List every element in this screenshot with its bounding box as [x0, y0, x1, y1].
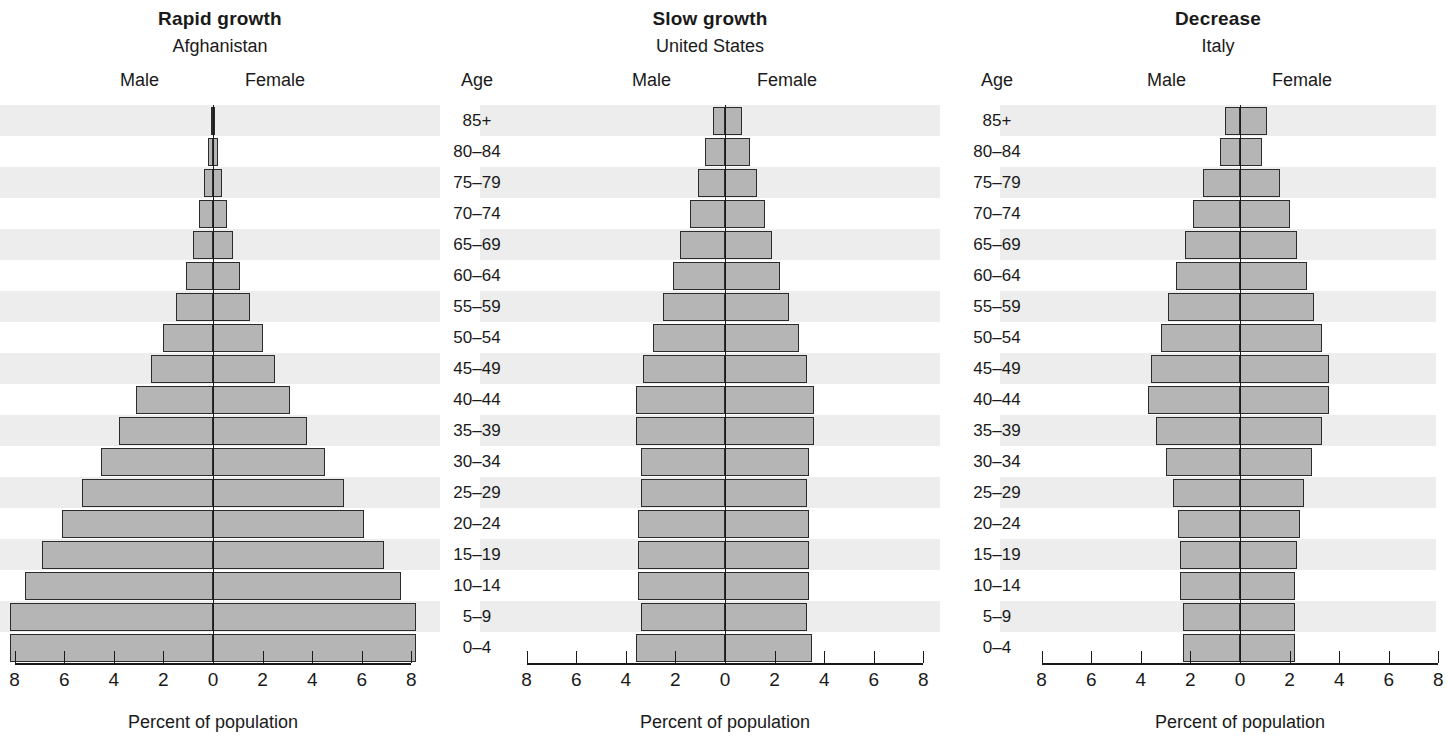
- bar-male: [638, 541, 725, 569]
- age-group-label: 20–24: [432, 514, 522, 534]
- age-group-label: 30–34: [952, 452, 1042, 472]
- age-group-label: 80–84: [432, 142, 522, 162]
- panel-title: Rapid growth: [0, 8, 440, 30]
- x-axis-tick-label: 2: [1175, 669, 1205, 691]
- bar-male: [1185, 231, 1240, 259]
- bar-male: [663, 293, 725, 321]
- bar-female: [725, 355, 807, 383]
- row-band: [0, 105, 440, 136]
- sex-legend: MaleFemale: [480, 70, 940, 94]
- bar-female: [725, 541, 809, 569]
- x-axis-tick: [923, 651, 924, 663]
- bar-male: [638, 572, 725, 600]
- age-column-header: Age: [432, 70, 522, 91]
- bar-female: [1240, 324, 1322, 352]
- bar-male: [673, 262, 725, 290]
- bar-female: [725, 138, 750, 166]
- bar-female: [213, 386, 290, 414]
- age-group-label: 30–34: [432, 452, 522, 472]
- bar-male: [1166, 448, 1240, 476]
- female-label: Female: [245, 70, 305, 91]
- age-group-label: 35–39: [952, 421, 1042, 441]
- bar-female: [213, 479, 344, 507]
- bar-male: [1173, 479, 1240, 507]
- x-axis-tick: [1190, 651, 1191, 663]
- x-axis-line: [527, 663, 924, 665]
- bar-female: [725, 634, 812, 662]
- bar-male: [638, 510, 725, 538]
- male-label: Male: [632, 70, 671, 91]
- x-axis-tick: [775, 651, 776, 663]
- bar-male: [1180, 541, 1240, 569]
- bar-male: [1180, 572, 1240, 600]
- bar-female: [725, 386, 814, 414]
- bar-male: [193, 231, 213, 259]
- age-group-label: 25–29: [952, 483, 1042, 503]
- bar-male: [10, 603, 213, 631]
- bar-male: [151, 355, 213, 383]
- bar-female: [1240, 479, 1304, 507]
- male-label: Male: [120, 70, 159, 91]
- x-axis-tick-label: 6: [347, 669, 377, 691]
- x-axis-tick: [1339, 651, 1340, 663]
- x-axis-tick-label: 2: [1275, 669, 1305, 691]
- bar-male: [101, 448, 213, 476]
- x-axis-tick-label: 2: [660, 669, 690, 691]
- bar-female: [1240, 262, 1307, 290]
- panel-title: Decrease: [1000, 8, 1436, 30]
- bar-male: [641, 479, 725, 507]
- bar-male: [1183, 603, 1240, 631]
- panel-country: United States: [480, 36, 940, 57]
- bar-female: [213, 634, 416, 662]
- panel-country: Afghanistan: [0, 36, 440, 57]
- bar-female: [213, 417, 307, 445]
- age-group-label: 70–74: [432, 204, 522, 224]
- bar-female: [1240, 386, 1329, 414]
- x-axis-tick-label: 4: [809, 669, 839, 691]
- x-axis-tick: [1141, 651, 1142, 663]
- bar-female: [725, 293, 789, 321]
- bar-female: [213, 603, 416, 631]
- bar-female: [1240, 634, 1295, 662]
- x-axis-tick: [263, 651, 264, 663]
- bar-female: [1240, 603, 1295, 631]
- age-group-label: 10–14: [432, 576, 522, 596]
- x-axis-tick-label: 6: [49, 669, 79, 691]
- age-group-label: 10–14: [952, 576, 1042, 596]
- male-label: Male: [1147, 70, 1186, 91]
- bar-male: [705, 138, 725, 166]
- x-axis-tick: [725, 651, 726, 663]
- sex-legend: MaleFemale: [1000, 70, 1436, 94]
- female-label: Female: [1272, 70, 1332, 91]
- bar-male: [62, 510, 213, 538]
- bar-female: [1240, 107, 1267, 135]
- bar-male: [176, 293, 213, 321]
- bar-female: [725, 479, 807, 507]
- bar-female: [725, 603, 807, 631]
- x-axis-tick-label: 8: [396, 669, 426, 691]
- x-axis-tick: [527, 651, 528, 663]
- bar-male: [186, 262, 213, 290]
- bar-male: [1148, 386, 1240, 414]
- bar-male: [636, 386, 725, 414]
- bar-female: [1240, 448, 1312, 476]
- age-group-label: 75–79: [432, 173, 522, 193]
- x-axis-tick-label: 0: [710, 669, 740, 691]
- age-group-label: 15–19: [432, 545, 522, 565]
- bar-male: [643, 355, 725, 383]
- x-axis-tick: [362, 651, 363, 663]
- bar-female: [725, 417, 814, 445]
- bar-female: [213, 572, 401, 600]
- age-group-label: 5–9: [952, 607, 1042, 627]
- x-axis-tick: [411, 651, 412, 663]
- bar-female: [1240, 169, 1280, 197]
- x-axis-tick: [675, 651, 676, 663]
- age-group-label: 25–29: [432, 483, 522, 503]
- bar-female: [725, 169, 757, 197]
- x-axis-tick: [874, 651, 875, 663]
- x-axis-tick-label: 4: [99, 669, 129, 691]
- age-group-label: 0–4: [952, 638, 1042, 658]
- bar-female: [1240, 541, 1297, 569]
- panel-country: Italy: [1000, 36, 1436, 57]
- age-group-label: 55–59: [432, 297, 522, 317]
